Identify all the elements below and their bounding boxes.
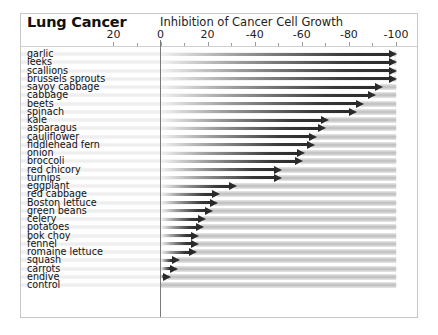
bar-arrow: [161, 200, 218, 205]
bar-arrow: [161, 192, 220, 197]
bar-arrow: [161, 258, 180, 263]
arrow-shaft: [161, 102, 358, 105]
arrow-shaft: [161, 218, 200, 221]
bar-arrow: [161, 208, 213, 213]
arrow-head-icon: [375, 83, 383, 91]
bar-row: beets: [21, 100, 397, 108]
bar-arrow: [161, 101, 364, 106]
arrow-head-icon: [196, 223, 204, 231]
x-tick-label: -60: [293, 28, 311, 41]
bar-arrow: [161, 76, 397, 81]
arrow-head-icon: [389, 50, 397, 58]
row-remainder-stripe: [201, 224, 396, 230]
arrow-head-icon: [274, 174, 282, 182]
bar-arrow: [161, 159, 302, 164]
bar-row: garlic: [21, 50, 397, 58]
arrow-head-icon: [349, 108, 357, 116]
bar-arrow: [161, 126, 326, 131]
arrow-head-icon: [389, 67, 397, 75]
bar-row: kale: [21, 116, 397, 124]
arrow-shaft: [161, 69, 391, 72]
arrow-head-icon: [205, 207, 213, 215]
arrow-head-icon: [389, 75, 397, 83]
row-remainder-stripe: [279, 175, 396, 181]
arrow-head-icon: [191, 240, 199, 248]
arrow-head-icon: [163, 273, 171, 281]
row-remainder-stripe: [161, 282, 397, 288]
arrow-head-icon: [321, 116, 329, 124]
arrow-head-icon: [212, 190, 220, 198]
row-remainder-stripe: [196, 233, 396, 239]
arrow-shaft: [161, 234, 193, 237]
arrow-shaft: [161, 53, 391, 56]
bar-row: spinach: [21, 108, 397, 116]
arrow-shaft: [161, 143, 308, 146]
arrow-shaft: [161, 160, 296, 163]
arrow-shaft: [161, 86, 376, 89]
arrow-shaft: [161, 168, 275, 171]
row-remainder-stripe: [314, 134, 396, 140]
bar-arrow: [161, 225, 203, 230]
arrow-shaft: [161, 185, 230, 188]
bar-row: endive: [21, 273, 397, 281]
arrow-shaft: [161, 193, 214, 196]
row-remainder-stripe: [203, 216, 396, 222]
bar-arrow: [161, 85, 382, 90]
bar-arrow: [161, 151, 305, 156]
bar-arrow: [161, 184, 236, 189]
x-tick-label: 20: [106, 28, 120, 41]
arrow-head-icon: [318, 124, 326, 132]
row-remainder-stripe: [373, 92, 396, 98]
row-remainder-stripe: [177, 257, 396, 263]
arrow-head-icon: [229, 182, 237, 190]
arrow-head-icon: [210, 199, 218, 207]
x-tick-label: -100: [384, 28, 409, 41]
arrow-shaft: [161, 135, 310, 138]
bar-rows: garlicleeksscallionsbrussels sproutssavo…: [21, 50, 397, 289]
bar-arrow: [161, 175, 281, 180]
arrow-shaft: [161, 94, 369, 97]
arrow-shaft: [161, 201, 212, 204]
bar-row: savoy cabbage: [21, 83, 397, 91]
arrow-shaft: [161, 209, 207, 212]
arrow-head-icon: [307, 141, 315, 149]
arrow-head-icon: [295, 157, 303, 165]
arrow-head-icon: [368, 91, 376, 99]
bar-arrow: [161, 134, 316, 139]
arrow-shaft: [161, 242, 193, 245]
row-remainder-stripe: [323, 125, 396, 131]
arrow-head-icon: [189, 248, 197, 256]
bar-row: bok choy: [21, 232, 397, 240]
arrow-shaft: [161, 127, 320, 130]
bar-arrow: [161, 233, 199, 238]
x-tick-label: 20: [201, 28, 215, 41]
bar-row: leeks: [21, 58, 397, 66]
bar-arrow: [161, 250, 196, 255]
bar-row: control: [21, 281, 397, 289]
row-remainder-stripe: [326, 117, 396, 123]
row-remainder-stripe: [312, 142, 396, 148]
row-remainder-stripe: [215, 200, 396, 206]
bar-row: potatoes: [21, 223, 397, 231]
row-remainder-stripe: [194, 249, 396, 255]
bar-row: red chicory: [21, 166, 397, 174]
arrow-head-icon: [191, 232, 199, 240]
x-axis-line: [21, 46, 417, 47]
row-remainder-stripe: [234, 183, 396, 189]
bar-arrow: [161, 93, 375, 98]
bar-arrow: [161, 266, 177, 271]
arrow-shaft: [161, 110, 350, 113]
zero-baseline: [160, 40, 161, 317]
arrow-head-icon: [198, 215, 206, 223]
row-remainder-stripe: [168, 274, 396, 280]
bar-arrow: [161, 241, 199, 246]
arrow-head-icon: [356, 100, 364, 108]
bar-row: carrots: [21, 265, 397, 273]
category-label: control: [27, 279, 60, 291]
x-axis-title: Inhibition of Cancer Cell Growth: [160, 15, 343, 29]
bar-arrow: [161, 52, 397, 57]
row-remainder-stripe: [196, 241, 396, 247]
arrow-head-icon: [297, 149, 305, 157]
bar-arrow: [161, 217, 206, 222]
arrow-shaft: [161, 61, 391, 64]
